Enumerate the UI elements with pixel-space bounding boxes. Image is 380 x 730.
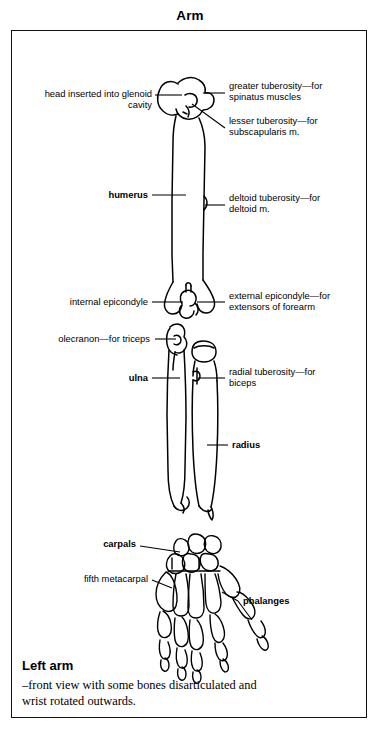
label-ulna: ulna — [70, 372, 148, 383]
label-radial-tuberosity: radial tuberosity—for biceps — [229, 366, 361, 389]
label-lesser-tuberosity: lesser tuberosity—for subscapularis m. — [229, 115, 361, 138]
label-humerus: humerus — [60, 189, 148, 200]
label-carpals: carpals — [50, 538, 136, 549]
label-radius: radius — [232, 439, 312, 450]
label-olecranon: olecranon—for triceps — [36, 333, 150, 344]
label-head-glenoid-cavity: head inserted into glenoid cavity — [24, 88, 152, 111]
figure-page: Arm — [0, 0, 380, 730]
label-internal-epicondyle: internal epicondyle — [40, 296, 148, 307]
page-title: Arm — [0, 8, 380, 23]
label-greater-tuberosity: greater tuberosity—for spinatus muscles — [229, 80, 361, 103]
caption-heading: Left arm — [22, 658, 73, 673]
label-phalanges: phalanges — [243, 595, 333, 606]
label-external-epicondyle: external epicondyle—for extensors of for… — [229, 290, 365, 313]
label-fifth-metacarpal: fifth metacarpal — [40, 573, 148, 584]
caption-body: –front view with some bones disarticulat… — [22, 678, 342, 709]
label-deltoid-tuberosity: deltoid tuberosity—for deltoid m. — [229, 192, 361, 215]
